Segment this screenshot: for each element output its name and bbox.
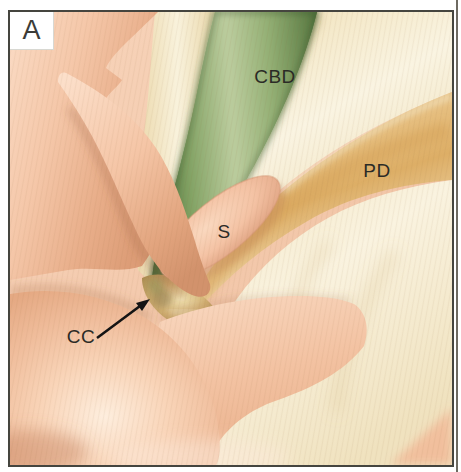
label-pancreatic-duct: PD [363, 160, 390, 182]
label-septum: S [217, 221, 230, 243]
panel-letter: A [22, 17, 40, 44]
striation-texture [10, 12, 452, 465]
panel-letter-badge: A [10, 12, 54, 50]
adjacent-panel-edge [456, 0, 458, 472]
label-common-channel: CC [67, 326, 95, 348]
illustration-frame: A CBD PD S CC [8, 10, 454, 467]
anatomy-artwork [10, 12, 452, 465]
figure-panel: A CBD PD S CC [0, 0, 461, 472]
label-common-bile-duct: CBD [254, 66, 296, 88]
